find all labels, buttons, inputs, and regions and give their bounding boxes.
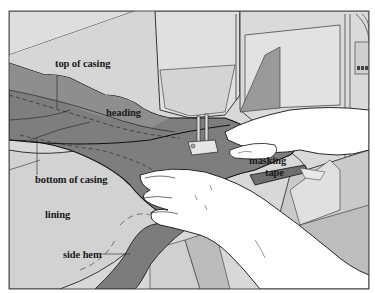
label-masking-tape-line1: masking <box>249 155 286 166</box>
label-side-hem: side hem <box>63 249 102 260</box>
sewing-illustration <box>0 0 375 293</box>
label-bottom-of-casing: bottom of casing <box>35 174 107 185</box>
label-masking-tape-line2: tape <box>265 167 284 178</box>
label-top-of-casing: top of casing <box>55 58 110 69</box>
label-lining: lining <box>45 209 70 220</box>
label-heading: heading <box>106 107 141 118</box>
